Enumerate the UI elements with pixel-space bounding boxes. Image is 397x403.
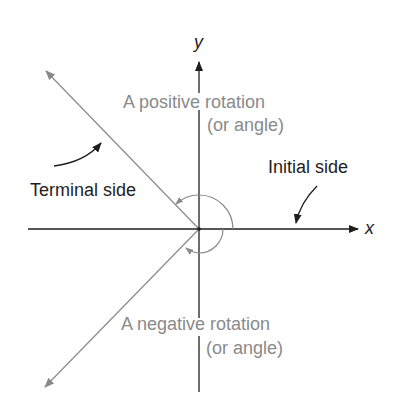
negative-rotation-sublabel: (or angle): [206, 338, 283, 359]
negative-rotation-arc: [186, 229, 223, 253]
diagram-graphics: [0, 0, 397, 403]
origin-point: [197, 227, 201, 231]
initial-side-pointer-arrow: [296, 186, 317, 223]
angle-rotation-diagram: y x A positive rotation (or angle) A neg…: [0, 0, 397, 403]
negative-rotation-label: A negative rotation: [121, 314, 270, 335]
y-axis-label: y: [194, 32, 203, 53]
terminal-side-negative-ray: [45, 229, 199, 387]
terminal-side-label: Terminal side: [30, 180, 136, 201]
terminal-side-pointer-arrow: [54, 143, 101, 166]
initial-side-label: Initial side: [268, 157, 348, 178]
x-axis-label: x: [365, 218, 374, 239]
positive-rotation-label: A positive rotation: [123, 92, 265, 113]
positive-rotation-sublabel: (or angle): [207, 115, 284, 136]
positive-rotation-arc: [176, 195, 233, 229]
